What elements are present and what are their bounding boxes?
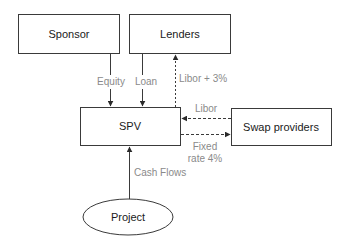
edge-cash-flows: Cash Flows xyxy=(130,147,187,199)
edge-loan-label: Loan xyxy=(135,76,157,87)
edge-fixed-rate-label-2: rate 4% xyxy=(188,153,223,164)
node-lenders: Lenders xyxy=(130,15,231,54)
node-sponsor-label: Sponsor xyxy=(49,28,90,40)
edge-libor-plus-3: Libor + 3% xyxy=(176,55,228,107)
edge-libor-plus-3-label: Libor + 3% xyxy=(179,73,227,84)
edge-cash-flows-label: Cash Flows xyxy=(134,167,186,178)
node-project: Project xyxy=(83,199,173,235)
edge-fixed-rate-label-1: Fixed xyxy=(193,141,217,152)
node-swap-providers: Swap providers xyxy=(232,109,332,146)
node-spv: SPV xyxy=(81,108,181,146)
node-swap-providers-label: Swap providers xyxy=(243,121,319,133)
edge-equity: Equity xyxy=(97,54,125,106)
edge-equity-label: Equity xyxy=(97,76,125,87)
edge-libor: Libor xyxy=(182,103,231,119)
edge-fixed-rate: Fixed rate 4% xyxy=(181,135,230,165)
edge-libor-label: Libor xyxy=(195,103,218,114)
node-spv-label: SPV xyxy=(119,120,142,132)
node-sponsor: Sponsor xyxy=(19,15,120,54)
edge-loan: Loan xyxy=(135,54,157,106)
node-lenders-label: Lenders xyxy=(160,28,200,40)
project-finance-diagram: Sponsor Lenders SPV Swap providers Proje… xyxy=(0,0,344,248)
node-project-label: Project xyxy=(111,211,145,223)
